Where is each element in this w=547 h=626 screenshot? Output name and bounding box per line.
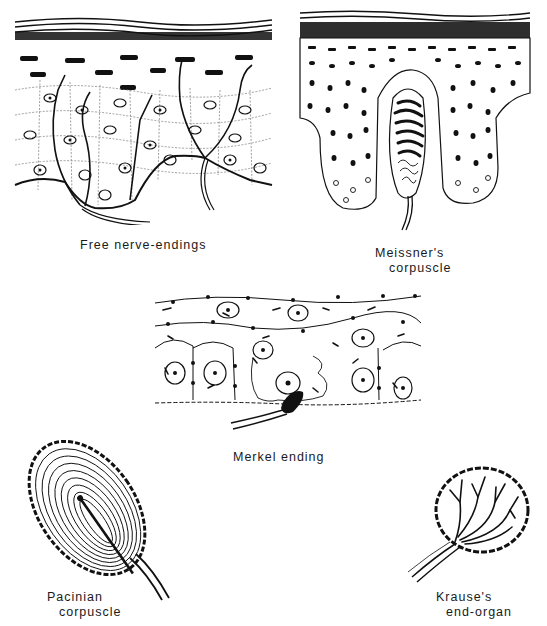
meissners-corpuscle-illustration	[298, 8, 533, 233]
krause-end-organ-label: Krause's end-organ	[436, 590, 512, 620]
free-nerve-endings-label: Free nerve-endings	[80, 238, 206, 253]
pacinian-corpuscle-illustration	[12, 438, 187, 608]
krause-end-organ-illustration	[400, 462, 535, 587]
meissners-corpuscle-label: Meissner's corpuscle	[375, 246, 452, 276]
merkel-ending-label: Merkel ending	[233, 450, 325, 465]
label-line: Meissner's	[375, 246, 452, 261]
label-line: Krause's	[436, 590, 512, 605]
label-line: Free nerve-endings	[80, 238, 206, 253]
label-line: Merkel ending	[233, 450, 325, 465]
free-nerve-endings-illustration	[10, 10, 275, 225]
merkel-ending-illustration	[153, 288, 423, 433]
pacinian-corpuscle-label: Pacinian corpuscle	[47, 590, 122, 620]
label-line: end-organ	[436, 605, 512, 620]
label-line: corpuscle	[375, 261, 452, 276]
label-line: Pacinian	[47, 590, 122, 605]
label-line: corpuscle	[47, 605, 122, 620]
